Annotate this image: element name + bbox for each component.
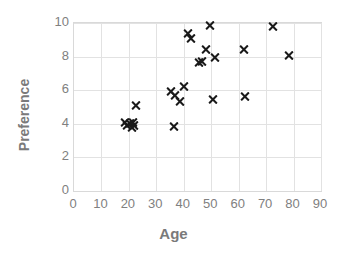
y-axis-tick-label: 8 <box>43 49 69 62</box>
data-point-marker <box>240 91 251 102</box>
data-point-marker <box>129 120 140 131</box>
gridline-vertical <box>129 23 130 191</box>
data-point-marker <box>185 33 196 44</box>
gridline-vertical <box>266 23 267 191</box>
data-point-marker <box>196 56 207 67</box>
x-axis-tick-label: 90 <box>305 197 335 210</box>
y-axis-tick-label: 4 <box>43 116 69 129</box>
data-point-marker <box>169 121 180 132</box>
data-point-marker <box>166 86 177 97</box>
data-point-marker <box>200 44 211 55</box>
x-axis-tick-label: 20 <box>113 197 143 210</box>
x-axis-title: Age <box>0 225 347 242</box>
x-axis-tick-label: 30 <box>140 197 170 210</box>
gridline-vertical <box>101 23 102 191</box>
gridline-horizontal <box>74 23 321 24</box>
gridline-vertical <box>294 23 295 191</box>
gridline-horizontal <box>74 90 321 91</box>
data-point-marker <box>122 120 133 131</box>
gridline-vertical <box>239 23 240 191</box>
x-axis-tick-label: 70 <box>250 197 280 210</box>
y-axis-title: Preference <box>16 55 32 175</box>
x-axis-tick-label: 40 <box>168 197 198 210</box>
y-axis-tick-label: 6 <box>43 82 69 95</box>
gridline-horizontal <box>74 57 321 58</box>
y-axis-tick-label: 0 <box>43 183 69 196</box>
gridline-vertical <box>321 23 322 191</box>
y-axis-tick-label: 2 <box>43 149 69 162</box>
data-point-marker <box>193 57 204 68</box>
scatter-chart: Preference Age 0246810010203040506070809… <box>0 0 347 262</box>
gridline-vertical <box>211 23 212 191</box>
x-axis-tick-label: 80 <box>278 197 308 210</box>
data-point-marker <box>130 100 141 111</box>
y-axis-tick-label: 10 <box>43 15 69 28</box>
data-point-marker <box>207 94 218 105</box>
gridline-vertical <box>184 23 185 191</box>
x-axis-tick-label: 10 <box>85 197 115 210</box>
x-axis-tick-label: 50 <box>195 197 225 210</box>
x-axis-tick-label: 60 <box>223 197 253 210</box>
gridline-vertical <box>156 23 157 191</box>
data-point-marker <box>170 90 181 101</box>
plot-area <box>73 22 322 192</box>
data-point-marker <box>239 44 250 55</box>
x-axis-tick-label: 0 <box>58 197 88 210</box>
gridline-horizontal <box>74 157 321 158</box>
data-point-marker <box>204 20 215 31</box>
gridline-horizontal <box>74 124 321 125</box>
